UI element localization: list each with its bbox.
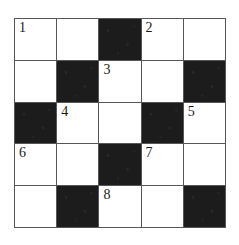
clue-number: 2 [146, 20, 153, 35]
crossword-cell-open[interactable] [99, 103, 140, 144]
clue-number: 8 [103, 187, 110, 202]
crossword-cell-blocked [99, 144, 140, 185]
crossword-cell-open[interactable] [142, 61, 183, 102]
crossword-cell-open[interactable] [57, 19, 98, 60]
crossword-cell-open[interactable]: 3 [99, 61, 140, 102]
crossword-cell-open[interactable]: 8 [99, 186, 140, 227]
crossword-cell-open[interactable] [57, 144, 98, 185]
crossword-cell-open[interactable]: 6 [15, 144, 56, 185]
crossword-cell-open[interactable]: 7 [142, 144, 183, 185]
crossword-cell-open[interactable] [184, 19, 225, 60]
crossword-cell-open[interactable]: 2 [142, 19, 183, 60]
crossword-cell-open[interactable] [142, 186, 183, 227]
crossword-cell-blocked [99, 19, 140, 60]
crossword-cell-blocked [184, 186, 225, 227]
crossword-puzzle: 12345678 [0, 0, 239, 245]
crossword-cell-blocked [184, 61, 225, 102]
clue-number: 7 [146, 145, 153, 160]
crossword-cell-blocked [15, 103, 56, 144]
clue-number: 5 [188, 104, 195, 119]
crossword-cell-blocked [142, 103, 183, 144]
crossword-cell-open[interactable] [15, 186, 56, 227]
crossword-cell-blocked [57, 61, 98, 102]
clue-number: 4 [61, 104, 68, 119]
crossword-cell-open[interactable] [184, 144, 225, 185]
crossword-cell-open[interactable]: 1 [15, 19, 56, 60]
clue-number: 3 [103, 62, 110, 77]
crossword-cell-open[interactable] [15, 61, 56, 102]
crossword-cell-open[interactable]: 5 [184, 103, 225, 144]
crossword-grid: 12345678 [14, 18, 226, 228]
crossword-cell-open[interactable]: 4 [57, 103, 98, 144]
clue-number: 1 [19, 20, 26, 35]
clue-number: 6 [19, 145, 26, 160]
crossword-cell-blocked [57, 186, 98, 227]
